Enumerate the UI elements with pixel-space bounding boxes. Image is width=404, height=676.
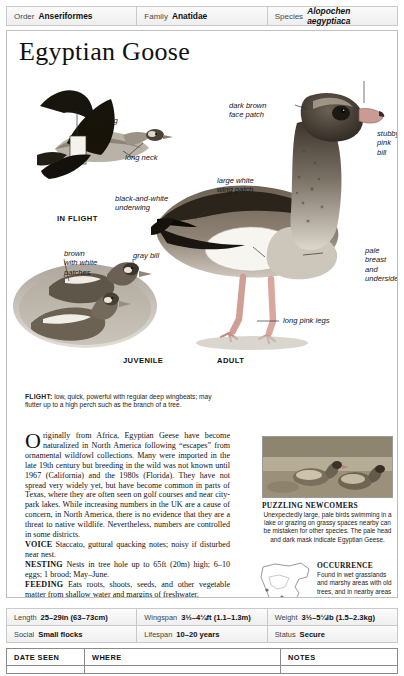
stat-social-key: Social bbox=[14, 630, 34, 639]
entry-date-seen[interactable] bbox=[7, 666, 85, 674]
occurrence-heading: OCCURRENCE bbox=[317, 561, 395, 570]
occurrence-text: Found in wet grasslands and marshy areas… bbox=[317, 571, 395, 598]
entry-where[interactable] bbox=[85, 666, 281, 674]
entry-notes[interactable] bbox=[281, 666, 397, 674]
column-notes: NOTES bbox=[281, 649, 397, 665]
stat-lifespan: Lifespan 10–20 years bbox=[137, 626, 267, 642]
taxonomy-species-value: Alopochen aegyptiaca bbox=[307, 6, 390, 26]
photo-puzzling-newcomers bbox=[262, 436, 393, 498]
stat-weight-key: Weight bbox=[275, 613, 298, 622]
taxonomy-order-value: Anseriformes bbox=[38, 11, 92, 21]
range-map bbox=[255, 559, 317, 598]
flight-note-label: FLIGHT: bbox=[25, 393, 52, 400]
stat-length-value: 25–29in (63–73cm) bbox=[41, 613, 108, 622]
feeding-entry: FEEDING Eats roots, shoots, seeds, and o… bbox=[25, 580, 230, 598]
flight-note: FLIGHT: low, quick, powerful with regula… bbox=[25, 393, 215, 410]
label-black-and-white-underwing: black-and-white underwing bbox=[115, 194, 168, 213]
bird-illustrations bbox=[7, 31, 397, 371]
nesting-entry: NESTING Nests in tree hole up to 65ft (2… bbox=[25, 560, 230, 580]
taxonomy-family: Family Anatidae bbox=[137, 7, 267, 25]
sightings-header-row: DATE SEEN WHERE NOTES bbox=[7, 649, 397, 666]
stat-wingspan-value: 3½–4¼ft (1.1–1.3m) bbox=[181, 613, 251, 622]
voice-text: Staccato, guttural quacking notes; noisy… bbox=[25, 540, 230, 559]
measurements-table: Length 25–29in (63–73cm) Wingspan 3½–4¼f… bbox=[6, 608, 398, 643]
taxonomy-species: Species Alopochen aegyptiaca bbox=[268, 7, 397, 25]
species-plate: Egyptian Goose bbox=[6, 30, 398, 598]
stat-social: Social Small flocks bbox=[7, 626, 137, 642]
adult-bird-art bbox=[151, 81, 384, 350]
taxonomy-species-key: Species bbox=[275, 12, 303, 21]
caption-adult: ADULT bbox=[217, 356, 244, 365]
stat-wingspan-key: Wingspan bbox=[144, 613, 177, 622]
stat-length: Length 25–29in (63–73cm) bbox=[7, 609, 137, 625]
measurements-row: Length 25–29in (63–73cm) Wingspan 3½–4¼f… bbox=[7, 609, 397, 626]
stat-status: Status Secure bbox=[268, 626, 397, 642]
nesting-label: NESTING bbox=[25, 560, 63, 569]
feeding-label: FEEDING bbox=[25, 580, 63, 589]
voice-entry: VOICE Staccato, guttural quacking notes;… bbox=[25, 540, 230, 560]
field-guide-page: Order Anseriformes Family Anatidae Speci… bbox=[0, 0, 404, 676]
stat-wingspan: Wingspan 3½–4¼ft (1.1–1.3m) bbox=[137, 609, 267, 625]
stat-weight-value: 3½–5¼lb (1.5–2.3kg) bbox=[302, 613, 375, 622]
label-pale-breast-and-underside: pale breast and underside bbox=[365, 246, 398, 284]
label-long-pink-legs: long pink legs bbox=[283, 316, 329, 325]
puzzling-heading: PUZZLING NEWCOMERS bbox=[262, 501, 393, 510]
stat-status-value: Secure bbox=[300, 630, 325, 639]
puzzling-text: Unexpectedly large, pale birds swimming … bbox=[262, 511, 393, 544]
occurrence-block: OCCURRENCE Found in wet grasslands and m… bbox=[317, 561, 395, 598]
stat-status-key: Status bbox=[275, 630, 296, 639]
sightings-entry-row[interactable] bbox=[7, 666, 397, 674]
taxonomy-family-value: Anatidae bbox=[172, 11, 207, 21]
taxonomy-bar: Order Anseriformes Family Anatidae Speci… bbox=[6, 6, 398, 26]
caption-in-flight: IN FLIGHT bbox=[57, 214, 98, 223]
label-long-neck: long neck bbox=[125, 153, 158, 162]
voice-label: VOICE bbox=[25, 540, 52, 549]
column-where: WHERE bbox=[85, 649, 281, 665]
stat-social-value: Small flocks bbox=[38, 630, 82, 639]
species-description: Originally from Africa, Egyptian Geese h… bbox=[25, 431, 230, 598]
measurements-row: Social Small flocks Lifespan 10–20 years… bbox=[7, 626, 397, 643]
label-white-forewing: white forewing bbox=[89, 107, 118, 126]
puzzling-newcomers-block: PUZZLING NEWCOMERS Unexpectedly large, p… bbox=[262, 501, 393, 544]
description-paragraph: riginally from Africa, Egyptian Geese ha… bbox=[25, 431, 230, 539]
stat-length-key: Length bbox=[14, 613, 37, 622]
sightings-log-table[interactable]: DATE SEEN WHERE NOTES bbox=[6, 648, 398, 674]
label-dark-brown-face-patch: dark brown face patch bbox=[229, 101, 267, 120]
label-brown-with-white-patches: brown with white patches bbox=[64, 249, 97, 277]
column-date-seen: DATE SEEN bbox=[7, 649, 85, 665]
stat-lifespan-value: 10–20 years bbox=[176, 630, 219, 639]
illustration-canvas: white forewing long neck black-and-white… bbox=[7, 31, 397, 371]
stat-weight: Weight 3½–5¼lb (1.5–2.3kg) bbox=[268, 609, 397, 625]
label-stubby-pink-bill: stubby pink bill bbox=[377, 129, 398, 157]
stat-lifespan-key: Lifespan bbox=[144, 630, 172, 639]
bird-in-flight-art bbox=[37, 90, 173, 179]
label-gray-bill: gray bill bbox=[133, 251, 159, 260]
drop-cap: O bbox=[25, 431, 43, 449]
label-large-white-wing-patch: large white wing patch bbox=[217, 176, 254, 195]
flight-note-text: low, quick, powerful with regular deep w… bbox=[25, 393, 212, 408]
taxonomy-family-key: Family bbox=[144, 12, 168, 21]
taxonomy-order: Order Anseriformes bbox=[7, 7, 137, 25]
caption-juvenile: JUVENILE bbox=[123, 356, 163, 365]
taxonomy-order-key: Order bbox=[14, 12, 34, 21]
